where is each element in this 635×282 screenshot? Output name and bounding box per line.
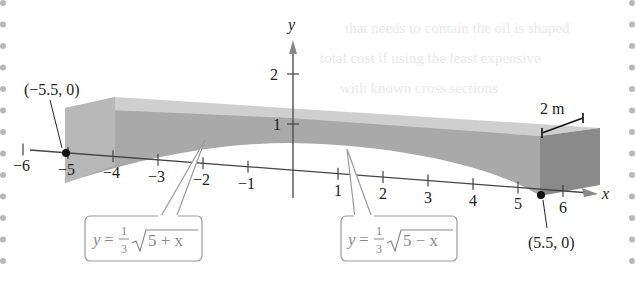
margin-dot xyxy=(0,237,6,243)
x-tick-label: 3 xyxy=(424,189,432,206)
margin-dot xyxy=(629,22,635,28)
margin-dot xyxy=(629,43,635,49)
point-left-label: (−5.5, 0) xyxy=(24,81,80,99)
margin-dot xyxy=(629,172,635,178)
equation-radicand: 5 + x xyxy=(148,231,184,250)
equation-callout-right: y = 1 3 5 − x xyxy=(341,149,457,261)
solid-side-face xyxy=(540,128,600,196)
equation-eq: = xyxy=(359,230,369,249)
margin-dot xyxy=(0,0,6,6)
x-tick-label: −6 xyxy=(13,157,30,174)
margin-dot xyxy=(0,194,6,200)
margin-dot xyxy=(0,258,6,264)
x-axis-arrow xyxy=(582,188,598,197)
margin-dot xyxy=(0,108,6,114)
margin-dot xyxy=(629,108,635,114)
equation-num: 1 xyxy=(121,224,127,238)
margin-dot xyxy=(629,65,635,71)
margin-dot xyxy=(629,215,635,221)
margin-dot xyxy=(629,237,635,243)
point-right-label: (5.5, 0) xyxy=(528,234,575,252)
x-tick-label: 1 xyxy=(334,182,342,199)
margin-dot xyxy=(0,215,6,221)
x-tick-label: 6 xyxy=(559,199,567,216)
y-tick-label: 2 xyxy=(270,66,278,83)
margin-dot xyxy=(629,194,635,200)
margin-dot xyxy=(0,22,6,28)
x-tick-label: −4 xyxy=(103,164,120,181)
margin-dot xyxy=(0,129,6,135)
point-right-leader xyxy=(543,200,547,228)
margin-dot xyxy=(629,151,635,157)
dimension-label: 2 m xyxy=(540,100,565,117)
margin-dot xyxy=(629,129,635,135)
x-tick-label: −2 xyxy=(193,171,210,188)
x-tick-label: 4 xyxy=(469,192,477,209)
x-tick-label: −1 xyxy=(238,175,255,192)
y-axis-label: y xyxy=(286,16,296,34)
margin-dot xyxy=(0,65,6,71)
x-tick-label: −3 xyxy=(148,168,165,185)
left-margin-dots xyxy=(0,0,6,264)
background-text-line: that needs to contain the oil is shaped xyxy=(345,20,570,36)
y-axis-arrow xyxy=(289,40,297,54)
point-left xyxy=(62,149,70,157)
equation-eq: = xyxy=(104,230,114,249)
point-left-leader xyxy=(50,100,62,148)
y-tick-label: 1 xyxy=(273,116,281,133)
margin-dot xyxy=(629,86,635,92)
x-axis-label: x xyxy=(601,185,609,202)
equation-den: 3 xyxy=(121,242,127,256)
margin-dot xyxy=(629,258,635,264)
margin-dot xyxy=(629,0,635,6)
x-tick-label: −5 xyxy=(58,161,75,178)
equation-den: 3 xyxy=(376,242,382,256)
background-text-line: with known cross sections xyxy=(340,80,498,96)
margin-dot xyxy=(0,172,6,178)
background-text-line: total cost if using the least expensive xyxy=(320,50,541,66)
equation-radicand: 5 − x xyxy=(403,231,439,250)
x-tick-label: 2 xyxy=(379,185,387,202)
equation-lhs: y xyxy=(346,230,356,249)
point-right xyxy=(537,191,545,199)
equation-num: 1 xyxy=(376,224,382,238)
x-tick-label: 5 xyxy=(514,195,522,212)
right-margin-dots xyxy=(629,0,635,264)
margin-dot xyxy=(0,151,6,157)
margin-dot xyxy=(0,43,6,49)
margin-dot xyxy=(0,86,6,92)
equation-lhs: y xyxy=(91,230,101,249)
diagram: that needs to contain the oil is shaped … xyxy=(0,0,635,282)
